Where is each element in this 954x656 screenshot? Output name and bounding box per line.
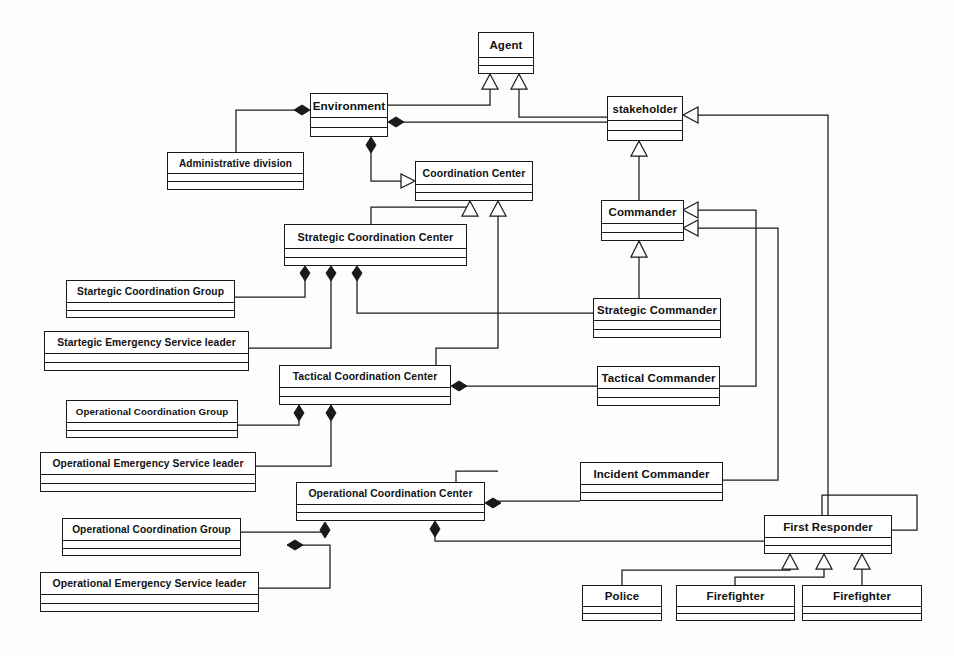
class-box-tacmd[interactable]: Tactical Commander (597, 366, 720, 406)
generalization-arrow-tacmd-commander (683, 202, 698, 218)
class-name-ff1: Firefighter (677, 586, 794, 606)
class-operations-oesl2 (41, 603, 258, 612)
edge-stake-agent-line (519, 88, 607, 117)
generalization-arrow-stake-agent (511, 74, 527, 89)
class-name-sesl: Startegic Emergency Service leader (45, 332, 248, 353)
uml-class-diagram: AgentEnvironmentstakeholderAdministrativ… (0, 0, 954, 656)
class-name-admindiv: Administrative division (168, 153, 303, 173)
class-operations-fr (765, 545, 891, 553)
class-name-occ: Operational Coordination Center (297, 483, 484, 504)
class-box-agent[interactable]: Agent (478, 32, 534, 74)
composition-diamond-fr-occ (430, 521, 440, 537)
class-operations-scc (285, 257, 466, 266)
class-box-oesl2[interactable]: Operational Emergency Service leader (40, 572, 259, 612)
class-name-commander: Commander (602, 201, 683, 223)
class-name-inccmd: Incident Commander (581, 463, 722, 484)
class-operations-ff2 (803, 613, 921, 620)
composition-diamond-ocg1-tcc (294, 405, 304, 421)
class-attributes-scc (285, 248, 466, 257)
class-box-ff2[interactable]: Firefighter (802, 585, 922, 621)
class-operations-inccmd (581, 492, 722, 500)
class-box-commander[interactable]: Commander (601, 200, 684, 241)
class-name-tacmd: Tactical Commander (598, 367, 719, 388)
edge-strcmd-scc-line (357, 280, 593, 313)
edge-env-agent-line (388, 88, 490, 105)
edge-ocg2-occ-line (241, 532, 325, 537)
generalization-arrow-police-fr (782, 554, 798, 569)
composition-diamond-inccmd-occ (485, 498, 501, 508)
class-box-stake[interactable]: stakeholder (607, 96, 683, 141)
class-box-ocg2[interactable]: Operational Coordination Group (62, 518, 241, 556)
class-attributes-tcc (280, 387, 450, 396)
edge-inccmd-commander-line (697, 228, 778, 480)
class-name-oesl1: Operational Emergency Service leader (41, 453, 255, 474)
composition-diamond-sesl-scc (326, 266, 336, 281)
class-name-env: Environment (311, 94, 387, 117)
class-attributes-ocg1 (67, 422, 237, 430)
class-box-fr[interactable]: First Responder (764, 515, 892, 554)
class-box-oesl1[interactable]: Operational Emergency Service leader (40, 452, 256, 492)
class-box-env[interactable]: Environment (310, 93, 388, 137)
class-name-police: Police (583, 586, 661, 606)
class-operations-tcc (280, 396, 450, 405)
class-name-ff2: Firefighter (803, 586, 921, 606)
class-name-stake: stakeholder (608, 97, 682, 120)
class-box-scg[interactable]: Startegic Coordination Group (66, 280, 235, 318)
generalization-arrow-env-agent (482, 74, 498, 89)
edge-sesl-scc-line (249, 280, 331, 348)
edge-ocg1-tcc-line (238, 420, 299, 425)
class-box-cc[interactable]: Coordination Center (415, 161, 533, 201)
open-arrow-cc-env (401, 174, 415, 188)
class-box-sesl[interactable]: Startegic Emergency Service leader (44, 331, 249, 371)
class-operations-commander (602, 232, 683, 241)
class-box-tcc[interactable]: Tactical Coordination Center (279, 365, 451, 405)
generalization-arrow-inccmd-commander (683, 220, 698, 236)
edge-scg-scc-line (235, 280, 305, 297)
class-operations-police (583, 613, 661, 620)
edge-cc-env-line (371, 152, 406, 181)
class-box-strcmd[interactable]: Strategic Commander (593, 298, 721, 338)
class-name-cc: Coordination Center (416, 162, 532, 184)
class-operations-cc (416, 192, 532, 200)
class-box-ocg1[interactable]: Operational Coordination Group (66, 400, 238, 438)
class-operations-scg (67, 310, 234, 318)
class-operations-env (311, 127, 387, 137)
class-box-police[interactable]: Police (582, 585, 662, 621)
class-name-scc: Strategic Coordination Center (285, 225, 466, 248)
class-attributes-agent (479, 57, 533, 65)
generalization-arrow-fr-stake (683, 107, 698, 123)
class-name-ocg1: Operational Coordination Group (67, 401, 237, 422)
class-attributes-stake (608, 120, 682, 130)
class-operations-admindiv (168, 181, 303, 189)
class-operations-tacmd (598, 397, 719, 406)
class-operations-occ (297, 512, 484, 520)
class-attributes-sesl (45, 353, 248, 362)
class-box-ff1[interactable]: Firefighter (676, 585, 795, 621)
class-box-inccmd[interactable]: Incident Commander (580, 462, 723, 501)
edge-oesl1-tcc-line (256, 420, 331, 466)
generalization-arrow-strcmd-commander (631, 241, 647, 257)
class-attributes-ff2 (803, 606, 921, 613)
class-box-admindiv[interactable]: Administrative division (167, 152, 304, 190)
relationship-edge-layer (0, 0, 954, 656)
class-attributes-oesl2 (41, 594, 258, 603)
class-operations-sesl (45, 362, 248, 371)
generalization-arrow-ff2-fr (854, 554, 870, 569)
class-box-occ[interactable]: Operational Coordination Center (296, 482, 485, 521)
composition-diamond-stake-env (388, 117, 404, 127)
class-attributes-admindiv (168, 173, 303, 181)
class-name-scg: Startegic Coordination Group (67, 281, 234, 302)
edge-oesl2-occ-line (259, 545, 330, 588)
class-attributes-police (583, 606, 661, 613)
generalization-arrow-commander-stake (631, 141, 647, 156)
class-operations-ocg2 (63, 548, 240, 556)
class-box-scc[interactable]: Strategic Coordination Center (284, 224, 467, 266)
class-name-ocg2: Operational Coordination Group (63, 519, 240, 540)
class-name-oesl2: Operational Emergency Service leader (41, 573, 258, 594)
class-operations-ocg1 (67, 430, 237, 438)
class-name-tcc: Tactical Coordination Center (280, 366, 450, 387)
class-operations-oesl1 (41, 483, 255, 492)
edge-occ-cc-line (456, 471, 498, 482)
composition-diamond-ocg2-occ (320, 522, 330, 538)
class-operations-stake (608, 130, 682, 140)
